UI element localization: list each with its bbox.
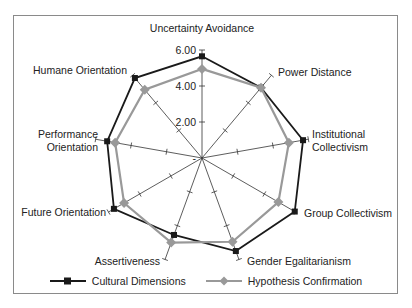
legend-label: Hypothesis Confirmation: [248, 275, 362, 287]
diamond-marker-line-icon: [206, 276, 242, 286]
axis-tick: [138, 191, 141, 196]
axis-label: Group Collectivism: [304, 207, 392, 219]
series-line: [107, 56, 303, 251]
square-marker-line-icon: [50, 276, 86, 286]
radar-series: [104, 53, 306, 254]
legend-item-hypothesis-confirmation: Hypothesis Confirmation: [206, 275, 362, 287]
square-marker: [171, 232, 177, 238]
axis-label: Gender Egalitarianism: [247, 255, 351, 267]
axis-label: Uncertainty Avoidance: [150, 22, 254, 34]
axis-tick: [166, 149, 167, 155]
axis-label: Power Distance: [278, 66, 352, 78]
axis-tick: [272, 143, 273, 149]
diamond-marker: [197, 64, 207, 74]
radial-tick-label: 2.00: [176, 116, 197, 128]
axis-label: Future Orientation: [21, 206, 106, 218]
square-marker: [104, 138, 110, 144]
axis-tick: [169, 173, 172, 178]
legend-label: Cultural Dimensions: [92, 275, 186, 287]
radar-axes: [95, 50, 309, 261]
axis-tick: [308, 136, 309, 142]
radial-tick-label: 6.00: [176, 44, 197, 56]
legend-item-cultural-dimensions: Cultural Dimensions: [50, 275, 186, 287]
axis-tick: [263, 191, 266, 196]
axis-tick: [107, 209, 110, 214]
square-marker: [300, 137, 306, 143]
legend: Cultural Dimensions Hypothesis Confirmat…: [0, 272, 412, 290]
axis-label: InstitutionalCollectivism: [312, 128, 368, 153]
axis-tick: [131, 143, 132, 149]
radar-chart: -2.004.006.00Uncertainty AvoidancePower …: [0, 0, 412, 308]
square-marker: [292, 209, 298, 215]
radial-tick-label: 4.00: [176, 80, 197, 92]
axis-tick: [237, 149, 238, 155]
square-marker: [111, 206, 117, 212]
radial-tick-label: -: [193, 152, 197, 164]
axis-label: Assertiveness: [95, 255, 160, 267]
diamond-marker: [140, 85, 150, 95]
square-marker: [233, 248, 239, 254]
axis-label: PerformanceOrientation: [38, 128, 98, 153]
axis-label: Humane Orientation: [33, 64, 127, 76]
square-marker: [132, 75, 138, 81]
square-marker: [199, 53, 205, 59]
diamond-marker: [110, 138, 120, 148]
axis-tick: [232, 173, 235, 178]
diamond-marker: [284, 138, 294, 148]
